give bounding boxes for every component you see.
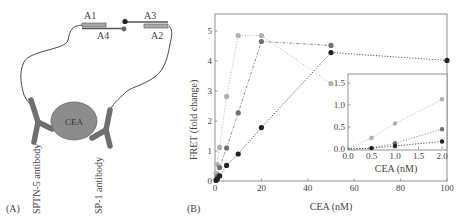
y-tick-label: 1 (208, 146, 213, 156)
sptn5-antibody-label: SPTN-5 antibody (31, 144, 42, 214)
label-a3: A3 (144, 10, 156, 21)
series-mid-point (236, 110, 241, 115)
y-tick-label: 5 (208, 26, 213, 36)
inset-frame (348, 74, 447, 150)
label-a4: A4 (97, 30, 109, 41)
y-tick-label: 2 (208, 116, 213, 126)
series-dark-point (217, 173, 222, 178)
figure: A1 A3 A4 A2 CEA SPTN-5 antibody SP-1 ant… (0, 0, 464, 224)
series-light-point (217, 145, 222, 150)
series-light-point (236, 33, 241, 38)
panel-b-chart: (B) FRET (fold change) CEA (nM) 02040608… (187, 14, 454, 215)
series-dark-point (259, 125, 264, 130)
series-light-point (224, 94, 229, 99)
x-tick-label: 0.5 (366, 151, 378, 161)
x-tick-label: 20 (257, 183, 267, 193)
series-mid-line (215, 42, 331, 182)
donor-dot (122, 19, 127, 24)
series-dark-point (328, 50, 333, 55)
series-mid-point (259, 39, 264, 44)
panel-a-diagram: A1 A3 A4 A2 CEA SPTN-5 antibody SP-1 ant… (6, 10, 172, 215)
sp1-antibody-label: SP-1 antibody (93, 157, 104, 214)
panel-b-label: (B) (187, 203, 200, 215)
main-ylabel: FRET (fold change) (188, 80, 200, 160)
label-a1: A1 (84, 10, 96, 21)
series-mid-point (328, 43, 333, 48)
series-dark-point (236, 151, 241, 156)
x-tick-label: 40 (303, 183, 313, 193)
x-tick-label: 80 (396, 183, 406, 193)
series-mid-point (224, 145, 229, 150)
series-dark-point (224, 163, 229, 168)
series-light-point (259, 33, 264, 38)
cea-label: CEA (65, 117, 84, 127)
series-light-point (393, 121, 397, 125)
series-mid-point (217, 165, 222, 170)
x-tick-label: 100 (440, 183, 454, 193)
series-dark-point (369, 146, 373, 150)
series-dark-point (393, 144, 397, 148)
series-dark-point (444, 58, 449, 63)
label-a2: A2 (151, 30, 163, 41)
x-tick-label: 1.0 (389, 151, 401, 161)
series-dark-point (440, 139, 444, 143)
series-mid-point (440, 127, 444, 131)
series-light-point (440, 97, 444, 101)
main-xlabel: CEA (nM) (310, 201, 353, 213)
sptn5-antibody-shape (31, 100, 52, 142)
inset-xlabel: CEA (nM) (375, 163, 418, 175)
y-tick-label: 4 (208, 56, 213, 66)
y-tick-label: 0.5 (334, 122, 346, 132)
x-tick-label: 2.0 (436, 151, 448, 161)
strand-a1 (82, 23, 106, 27)
series-light-point (369, 136, 373, 140)
y-tick-label: 0 (208, 176, 213, 186)
x-tick-label: 0 (213, 183, 218, 193)
strand-a2 (144, 24, 168, 28)
y-tick-label: 1.0 (334, 100, 346, 110)
y-tick-label: 1.5 (334, 78, 346, 88)
x-tick-label: 60 (350, 183, 360, 193)
x-tick-label: 1.5 (413, 151, 425, 161)
acceptor-dot (122, 27, 127, 32)
y-tick-label: 3 (208, 86, 213, 96)
y-tick-label: 0.0 (334, 144, 346, 154)
panel-a-label: (A) (6, 203, 20, 215)
